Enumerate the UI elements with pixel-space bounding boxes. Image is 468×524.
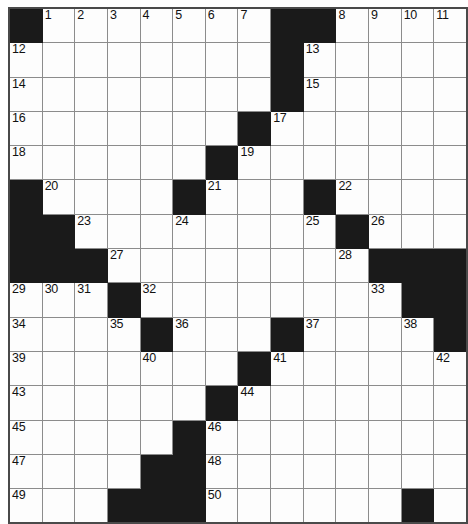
letter-cell[interactable]	[173, 111, 206, 145]
letter-cell[interactable]	[42, 111, 75, 145]
letter-cell[interactable]	[107, 43, 140, 77]
letter-cell[interactable]	[238, 317, 271, 351]
letter-cell[interactable]	[303, 146, 336, 180]
letter-cell[interactable]	[336, 317, 369, 351]
letter-cell[interactable]	[238, 214, 271, 248]
letter-cell[interactable]	[336, 386, 369, 420]
letter-cell[interactable]	[107, 180, 140, 214]
numbered-cell[interactable]: 27	[107, 249, 140, 283]
letter-cell[interactable]	[401, 454, 434, 488]
numbered-cell[interactable]: 11	[434, 8, 467, 43]
letter-cell[interactable]	[238, 43, 271, 77]
letter-cell[interactable]	[173, 283, 206, 317]
letter-cell[interactable]	[271, 180, 304, 214]
letter-cell[interactable]	[107, 111, 140, 145]
letter-cell[interactable]	[271, 214, 304, 248]
numbered-cell[interactable]: 6	[205, 8, 238, 43]
numbered-cell[interactable]: 2	[75, 8, 108, 43]
numbered-cell[interactable]: 47	[9, 454, 42, 488]
letter-cell[interactable]	[336, 283, 369, 317]
letter-cell[interactable]	[336, 43, 369, 77]
numbered-cell[interactable]: 39	[9, 351, 42, 385]
letter-cell[interactable]	[369, 386, 402, 420]
numbered-cell[interactable]: 15	[303, 77, 336, 111]
letter-cell[interactable]	[434, 111, 467, 145]
letter-cell[interactable]	[140, 77, 173, 111]
crossword-grid[interactable]: 1234567891011121314151617181920212223242…	[8, 7, 468, 524]
letter-cell[interactable]	[369, 454, 402, 488]
letter-cell[interactable]	[434, 489, 467, 524]
letter-cell[interactable]	[238, 420, 271, 454]
numbered-cell[interactable]: 37	[303, 317, 336, 351]
letter-cell[interactable]	[369, 489, 402, 524]
numbered-cell[interactable]: 29	[9, 283, 42, 317]
letter-cell[interactable]	[140, 249, 173, 283]
numbered-cell[interactable]: 25	[303, 214, 336, 248]
numbered-cell[interactable]: 48	[205, 454, 238, 488]
letter-cell[interactable]	[303, 111, 336, 145]
letter-cell[interactable]	[107, 454, 140, 488]
letter-cell[interactable]	[205, 317, 238, 351]
letter-cell[interactable]	[173, 146, 206, 180]
letter-cell[interactable]	[75, 489, 108, 524]
letter-cell[interactable]	[173, 43, 206, 77]
letter-cell[interactable]	[271, 454, 304, 488]
letter-cell[interactable]	[369, 180, 402, 214]
letter-cell[interactable]	[140, 180, 173, 214]
letter-cell[interactable]	[238, 249, 271, 283]
letter-cell[interactable]	[401, 351, 434, 385]
letter-cell[interactable]	[336, 111, 369, 145]
numbered-cell[interactable]: 9	[369, 8, 402, 43]
letter-cell[interactable]	[75, 180, 108, 214]
numbered-cell[interactable]: 26	[369, 214, 402, 248]
numbered-cell[interactable]: 12	[9, 43, 42, 77]
letter-cell[interactable]	[42, 77, 75, 111]
letter-cell[interactable]	[369, 317, 402, 351]
letter-cell[interactable]	[434, 77, 467, 111]
letter-cell[interactable]	[205, 214, 238, 248]
numbered-cell[interactable]: 46	[205, 420, 238, 454]
letter-cell[interactable]	[75, 111, 108, 145]
numbered-cell[interactable]: 50	[205, 489, 238, 524]
letter-cell[interactable]	[336, 489, 369, 524]
letter-cell[interactable]	[434, 146, 467, 180]
letter-cell[interactable]	[336, 351, 369, 385]
letter-cell[interactable]	[401, 420, 434, 454]
letter-cell[interactable]	[75, 317, 108, 351]
letter-cell[interactable]	[238, 454, 271, 488]
letter-cell[interactable]	[271, 249, 304, 283]
numbered-cell[interactable]: 16	[9, 111, 42, 145]
numbered-cell[interactable]: 31	[75, 283, 108, 317]
letter-cell[interactable]	[369, 77, 402, 111]
letter-cell[interactable]	[303, 454, 336, 488]
numbered-cell[interactable]: 21	[205, 180, 238, 214]
letter-cell[interactable]	[271, 420, 304, 454]
letter-cell[interactable]	[75, 420, 108, 454]
letter-cell[interactable]	[205, 249, 238, 283]
letter-cell[interactable]	[107, 77, 140, 111]
letter-cell[interactable]	[303, 249, 336, 283]
letter-cell[interactable]	[434, 214, 467, 248]
letter-cell[interactable]	[75, 386, 108, 420]
letter-cell[interactable]	[75, 146, 108, 180]
letter-cell[interactable]	[401, 180, 434, 214]
numbered-cell[interactable]: 14	[9, 77, 42, 111]
letter-cell[interactable]	[107, 420, 140, 454]
numbered-cell[interactable]: 43	[9, 386, 42, 420]
letter-cell[interactable]	[369, 111, 402, 145]
numbered-cell[interactable]: 13	[303, 43, 336, 77]
letter-cell[interactable]	[205, 351, 238, 385]
letter-cell[interactable]	[401, 77, 434, 111]
letter-cell[interactable]	[205, 283, 238, 317]
numbered-cell[interactable]: 10	[401, 8, 434, 43]
letter-cell[interactable]	[75, 43, 108, 77]
letter-cell[interactable]	[401, 111, 434, 145]
letter-cell[interactable]	[42, 43, 75, 77]
numbered-cell[interactable]: 38	[401, 317, 434, 351]
letter-cell[interactable]	[173, 249, 206, 283]
letter-cell[interactable]	[107, 386, 140, 420]
letter-cell[interactable]	[238, 180, 271, 214]
letter-cell[interactable]	[401, 214, 434, 248]
letter-cell[interactable]	[205, 77, 238, 111]
letter-cell[interactable]	[336, 77, 369, 111]
